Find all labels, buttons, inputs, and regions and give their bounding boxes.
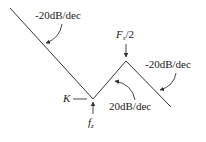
bode-diagram: -20dB/dec Fs/2 -20dB/dec 20dB/dec K fz	[0, 0, 206, 142]
slope-right-label: -20dB/dec	[145, 58, 191, 70]
diagram-svg: -20dB/dec Fs/2 -20dB/dec 20dB/dec K fz	[0, 0, 206, 142]
slope-left-label: -20dB/dec	[35, 9, 81, 21]
slope-right-arrow	[160, 73, 176, 90]
peak-label: Fs/2	[115, 28, 134, 42]
valley-label: fz	[88, 116, 94, 130]
gain-label: K	[62, 92, 71, 104]
slope-mid-label: 20dB/dec	[109, 100, 151, 112]
slope-mid-arrow	[115, 81, 135, 100]
slope-left-arrow	[46, 24, 62, 43]
